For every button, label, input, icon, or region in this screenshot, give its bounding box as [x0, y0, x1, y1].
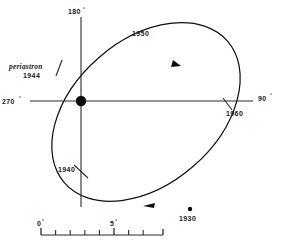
scale-bar-group: 0 ° 5 ° [37, 218, 163, 235]
label-angle-270-degree-symbol: ° [19, 95, 21, 101]
scale-label-zero: 0 [37, 220, 41, 227]
annotation-periastron-label: periastron [8, 62, 43, 71]
direction-arrow-upper-icon [171, 60, 181, 67]
direction-arrow-lower-icon [143, 203, 155, 208]
scale-label-five-unit: ° [115, 218, 117, 224]
annotation-periastron-group: periastron 1944 [8, 62, 43, 79]
scale-label-zero-unit: ° [42, 218, 44, 224]
label-epoch-1940: 1940 [58, 166, 75, 173]
label-epoch-1930: 1930 [179, 215, 196, 222]
label-epoch-1960: 1960 [226, 110, 243, 117]
primary-star-focus-dot [76, 96, 86, 106]
epoch-marker-1930-dot [188, 207, 192, 211]
scale-label-five: 5 [110, 220, 114, 227]
label-angle-180: 180 [68, 8, 81, 15]
axes-group [30, 17, 253, 207]
scale-label-zero-group: 0 ° [37, 218, 44, 227]
label-angle-90-degree-symbol: ° [270, 92, 272, 98]
epoch-1960-leader-line [223, 98, 232, 110]
annotation-periastron-year: 1944 [23, 72, 40, 79]
direction-arrows-group [143, 60, 181, 208]
label-angle-90: 90 [258, 95, 267, 102]
label-angle-90-group: 90 ° [258, 92, 272, 102]
scale-label-five-group: 5 ° [110, 218, 117, 227]
orbit-diagram-figure: 180 ° 270 ° 90 ° periastron 1944 1950 19… [0, 0, 281, 241]
label-angle-180-group: 180 ° [68, 6, 85, 15]
label-angle-180-degree-symbol: ° [83, 6, 85, 12]
label-epoch-1950: 1950 [132, 30, 149, 37]
periastron-leader-line [56, 60, 62, 76]
label-angle-270-group: 270 ° [2, 95, 21, 105]
label-angle-270: 270 [2, 98, 15, 105]
